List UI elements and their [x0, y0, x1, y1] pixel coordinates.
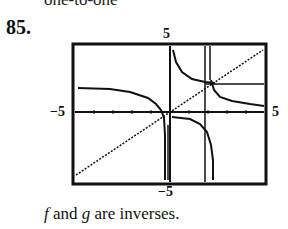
f-curve-right	[172, 117, 213, 180]
g-curve-upper	[173, 50, 215, 83]
graph	[0, 0, 288, 229]
caption: f and g are inverses.	[44, 204, 180, 224]
f-curve-left	[78, 88, 165, 180]
